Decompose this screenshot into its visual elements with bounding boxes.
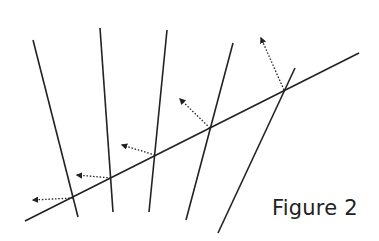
line-3 [149, 30, 167, 212]
lines-group [33, 28, 295, 233]
line-2 [100, 28, 113, 212]
line-4 [186, 43, 233, 220]
dotted-arrow-3 [122, 145, 155, 155]
dotted-arrow-4 [180, 99, 210, 128]
dotted-arrow-2 [77, 175, 111, 178]
figure-caption: Figure 2 [272, 196, 358, 220]
line-1 [33, 40, 78, 217]
dotted-arrow-5 [261, 38, 284, 90]
